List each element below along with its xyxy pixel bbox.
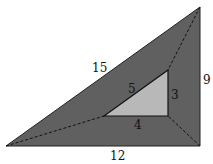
triangle-diagram: 15 9 12 5 3 4	[0, 0, 213, 164]
outer-vertical-label: 9	[203, 73, 211, 87]
outer-horizontal-label: 12	[110, 149, 125, 163]
inner-horizontal-label: 4	[134, 118, 142, 132]
inner-vertical-label: 3	[171, 88, 179, 102]
inner-hypotenuse-label: 5	[128, 82, 136, 96]
outer-triangle	[6, 7, 200, 146]
outer-hypotenuse-label: 15	[92, 61, 107, 75]
